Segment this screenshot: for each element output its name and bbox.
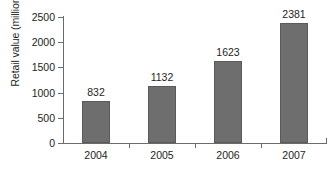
y-axis-tick-label: 1500 bbox=[21, 62, 55, 72]
plot-area bbox=[63, 17, 327, 143]
bar-value-label: 832 bbox=[66, 87, 126, 98]
y-axis-tick-label: 0 bbox=[21, 138, 55, 148]
bar bbox=[148, 86, 176, 143]
x-axis-category-label: 2006 bbox=[198, 149, 258, 161]
bar bbox=[280, 23, 308, 143]
bar bbox=[214, 61, 242, 143]
bar-value-label: 1623 bbox=[198, 47, 258, 58]
x-axis-category-label: 2007 bbox=[264, 149, 324, 161]
y-axis-tick-label: 2500 bbox=[21, 12, 55, 22]
y-axis-tick-label: 2000 bbox=[21, 37, 55, 47]
bar-chart: Retail value (million €) 050010001500200… bbox=[0, 0, 334, 171]
bar-value-label: 1132 bbox=[132, 72, 192, 83]
x-axis-tick bbox=[195, 143, 196, 148]
x-axis-tick bbox=[261, 143, 262, 148]
x-axis-category-label: 2005 bbox=[132, 149, 192, 161]
y-axis-tick-label: 500 bbox=[21, 113, 55, 123]
bar-value-label: 2381 bbox=[264, 9, 324, 20]
bar bbox=[82, 101, 110, 143]
y-axis-tick bbox=[58, 143, 63, 144]
x-axis-tick bbox=[129, 143, 130, 148]
x-axis-category-label: 2004 bbox=[66, 149, 126, 161]
y-axis-tick-label: 1000 bbox=[21, 88, 55, 98]
